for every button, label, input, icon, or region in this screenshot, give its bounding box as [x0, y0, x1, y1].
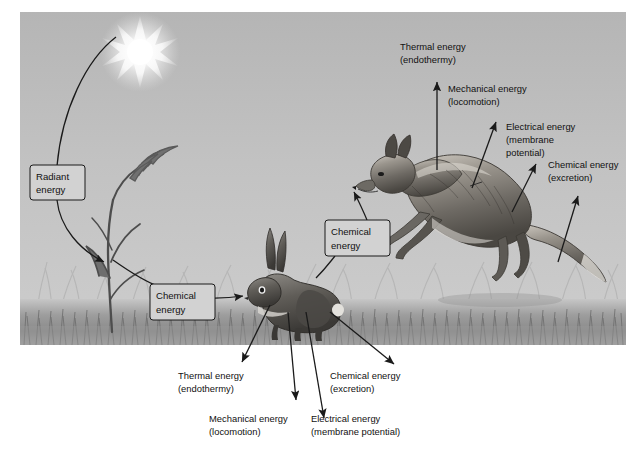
fox-label-thermal-line1: Thermal energy: [400, 41, 466, 52]
fox-shadow: [438, 293, 562, 307]
fox-label-mechanical-line2: (locomotion): [448, 96, 500, 107]
rabbit-label-mechanical-line2: (locomotion): [209, 426, 261, 437]
sun: [100, 12, 180, 92]
callout-chemical-energy-rabbit[interactable]: Chemical energy: [325, 220, 390, 256]
callout-radiant-energy-line2: energy: [36, 184, 66, 195]
rabbit-label-thermal-line2: (endothermy): [178, 383, 234, 394]
fox-label-electrical-line3: potential): [506, 147, 545, 158]
rabbit-label-electrical-line1: Electrical energy: [311, 413, 381, 424]
callout-radiant-energy[interactable]: Radiant energy: [30, 165, 85, 200]
fox-label-electrical-line1: Electrical energy: [506, 121, 576, 132]
fox-label-electrical-line2: (membrane: [506, 134, 554, 145]
fox-label-chemical-line1: Chemical energy: [548, 159, 619, 170]
callout-chemical-energy-rabbit-line1: Chemical: [331, 226, 371, 237]
callout-chemical-energy-plant[interactable]: Chemical energy: [150, 284, 215, 320]
callout-chemical-energy-rabbit-line2: energy: [331, 240, 361, 251]
energy-flow-figure: Radiant energy Chemical energy Chemical …: [0, 0, 637, 453]
illustration-panel: [20, 12, 626, 345]
rabbit-label-thermal-line1: Thermal energy: [178, 370, 244, 381]
callout-chemical-energy-plant-line1: Chemical: [156, 290, 196, 301]
callout-chemical-energy-plant-line2: energy: [156, 304, 186, 315]
rabbit-label-chemical-line2: (excretion): [330, 383, 374, 394]
rabbit-label-electrical-line2: (membrane potential): [311, 426, 400, 437]
rabbit-label-mechanical-line1: Mechanical energy: [209, 413, 288, 424]
rabbit-label-chemical-line1: Chemical energy: [330, 370, 401, 381]
fox-label-mechanical-line1: Mechanical energy: [448, 83, 527, 94]
callout-radiant-energy-line1: Radiant: [36, 171, 69, 182]
fox-label-thermal-line2: (endothermy): [400, 54, 456, 65]
fox-label-chemical-line2: (excretion): [548, 172, 592, 183]
